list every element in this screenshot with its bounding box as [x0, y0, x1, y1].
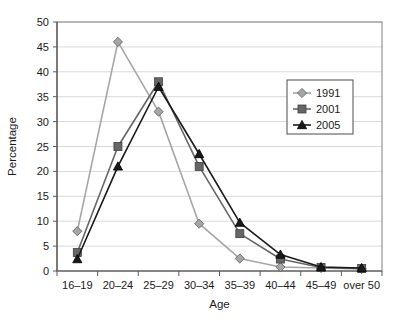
x-tick-label: 20–24	[103, 279, 134, 291]
legend-item-2001[interactable]: 2001	[293, 103, 340, 115]
x-tick-label: 16–19	[62, 279, 93, 291]
y-tick-label: 20	[37, 165, 49, 177]
y-tick-label: 5	[43, 240, 49, 252]
legend-label-2001: 2001	[316, 103, 340, 115]
y-tick-label: 30	[37, 116, 49, 128]
x-tick-label: 40–44	[265, 279, 296, 291]
x-axis-title: Age	[209, 298, 229, 310]
legend-label-2005: 2005	[316, 119, 340, 131]
x-tick-label: 35–39	[225, 279, 256, 291]
y-tick-label: 25	[37, 141, 49, 153]
line-chart: 0510152025303540455016–1920–2425–2930–34…	[0, 0, 395, 325]
x-tick-label: over 50	[343, 279, 380, 291]
x-axis: 16–1920–2425–2930–3435–3940–4445–49over …	[57, 271, 382, 291]
data-point-2001-20–24	[114, 143, 122, 151]
y-tick-label: 0	[43, 265, 49, 277]
legend: 199120012005	[287, 80, 353, 134]
data-point-2001-30–34	[195, 162, 203, 170]
data-point-2001-35–39	[236, 230, 244, 238]
y-tick-label: 50	[37, 16, 49, 28]
y-tick-label: 35	[37, 91, 49, 103]
y-tick-label: 15	[37, 190, 49, 202]
legend-label-1991: 1991	[316, 87, 340, 99]
legend-marker-2001	[298, 105, 306, 113]
chart-container: 0510152025303540455016–1920–2425–2930–34…	[0, 0, 395, 325]
x-tick-label: 30–34	[184, 279, 215, 291]
y-tick-label: 45	[37, 41, 49, 53]
x-tick-label: 45–49	[306, 279, 337, 291]
y-tick-label: 40	[37, 66, 49, 78]
x-tick-label: 25–29	[143, 279, 174, 291]
y-tick-label: 10	[37, 215, 49, 227]
y-axis-title: Percentage	[6, 117, 18, 176]
